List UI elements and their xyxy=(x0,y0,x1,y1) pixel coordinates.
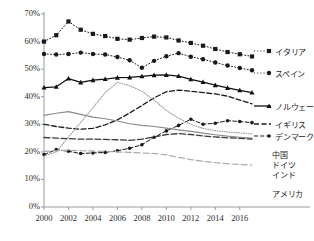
line-chart-plot xyxy=(0,0,314,241)
data-point-marker xyxy=(176,38,180,42)
legend-item-0: イタリア xyxy=(275,46,306,57)
data-point-marker xyxy=(201,122,205,126)
data-point-marker xyxy=(128,38,132,42)
legend-item-8: アメリカ xyxy=(272,188,303,199)
legend-item-4: デンマーク xyxy=(275,131,314,142)
data-point-marker xyxy=(213,47,217,51)
data-point-marker xyxy=(79,50,83,54)
data-point-marker xyxy=(66,52,70,56)
data-point-marker xyxy=(91,32,95,36)
data-point-marker xyxy=(226,119,230,123)
series-line xyxy=(44,134,252,141)
data-point-marker xyxy=(79,152,83,156)
legend-marker-0 xyxy=(254,49,271,53)
data-point-marker xyxy=(152,59,156,63)
data-point-marker xyxy=(66,76,71,81)
y-axis-tick-label: 0% xyxy=(2,201,40,211)
data-point-marker xyxy=(115,55,119,59)
data-point-marker xyxy=(42,52,46,56)
y-axis-tick-label: 50% xyxy=(2,63,40,73)
data-point-marker xyxy=(213,60,217,64)
data-point-marker xyxy=(238,66,242,70)
data-point-marker xyxy=(201,44,205,48)
data-point-marker xyxy=(176,51,180,55)
data-point-marker xyxy=(140,143,144,147)
data-point-marker xyxy=(238,120,242,124)
data-point-marker xyxy=(238,52,242,56)
data-point-marker xyxy=(115,37,119,41)
y-axis-tick-label: 10% xyxy=(2,173,40,183)
series-line xyxy=(44,119,252,154)
data-point-marker xyxy=(42,39,46,43)
data-point-marker xyxy=(128,146,132,150)
series-6 xyxy=(44,112,252,138)
data-point-marker xyxy=(127,58,131,62)
data-point-marker xyxy=(267,71,271,75)
data-point-marker xyxy=(267,134,271,138)
y-axis-tick-label: 40% xyxy=(2,91,40,101)
legend-item-7: インド xyxy=(272,169,295,180)
series-line xyxy=(44,21,252,56)
series-line xyxy=(44,75,252,93)
data-point-marker xyxy=(91,52,95,56)
data-point-marker xyxy=(250,121,254,125)
y-axis-tick-label: 60% xyxy=(2,36,40,46)
chart-container: 0%10%20%30%40%50%60%70%20002002200420062… xyxy=(0,0,314,241)
data-point-marker xyxy=(79,28,83,32)
data-point-marker xyxy=(103,34,107,38)
data-point-marker xyxy=(66,19,70,23)
data-point-marker xyxy=(225,63,229,67)
series-0 xyxy=(42,19,254,58)
data-point-marker xyxy=(225,50,229,54)
data-point-marker xyxy=(177,124,181,128)
data-point-marker xyxy=(140,66,144,70)
y-axis-tick-label: 30% xyxy=(2,118,40,128)
legend-item-3: イギリス xyxy=(275,119,306,130)
data-point-marker xyxy=(189,55,193,59)
data-point-marker xyxy=(250,68,254,72)
data-point-marker xyxy=(267,49,271,53)
data-point-marker xyxy=(91,151,95,155)
data-point-marker xyxy=(201,57,205,61)
legend-marker-1 xyxy=(254,71,271,75)
x-axis-tick-label: 2016 xyxy=(225,213,255,223)
series-7 xyxy=(44,134,252,141)
data-point-marker xyxy=(103,52,107,56)
series-1 xyxy=(42,50,254,72)
series-line xyxy=(44,82,252,156)
series-line xyxy=(44,53,252,71)
series-5 xyxy=(44,82,252,156)
data-point-marker xyxy=(164,54,168,58)
series-line xyxy=(44,112,252,138)
legend-marker-4 xyxy=(254,134,271,138)
legend-item-1: スペイン xyxy=(275,68,305,79)
y-axis-tick-label: 70% xyxy=(2,8,40,18)
data-point-marker xyxy=(54,33,58,37)
legend-item-2: ノルウェー xyxy=(275,101,314,112)
data-point-marker xyxy=(54,52,58,56)
data-point-marker xyxy=(213,121,217,125)
data-point-marker xyxy=(140,36,144,40)
data-point-marker xyxy=(250,54,254,58)
data-point-marker xyxy=(152,35,156,39)
data-point-marker xyxy=(189,41,193,45)
data-point-marker xyxy=(164,35,168,39)
series-2 xyxy=(42,72,255,94)
legend-marker-2 xyxy=(254,103,272,108)
y-axis-tick-label: 20% xyxy=(2,146,40,156)
data-point-marker xyxy=(165,129,169,133)
data-point-marker xyxy=(189,118,193,122)
